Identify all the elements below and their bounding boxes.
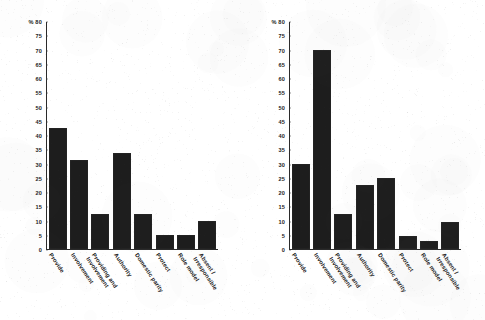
y-axis-tick-mark	[289, 36, 291, 37]
y-axis-tick-label: 30	[278, 162, 289, 168]
y-axis-tick-label: 40	[35, 133, 46, 139]
y-axis-tick-label: 55	[35, 90, 46, 96]
x-axis-category-label: Authority	[354, 252, 375, 279]
y-axis-tick-label: 10	[35, 219, 46, 225]
x-axis-category-label-line: Authority	[356, 252, 376, 278]
y-axis-tick-label: 0	[282, 247, 289, 253]
bar	[292, 164, 310, 249]
y-axis-tick-mark	[46, 164, 48, 165]
y-axis-tick-label: % 80	[271, 19, 289, 25]
y-axis-tick-label: 10	[278, 219, 289, 225]
x-axis-category-label: Provide	[47, 252, 66, 275]
bar	[70, 160, 88, 249]
plot-area-left: 051015202530354045505560657075% 80	[46, 22, 218, 250]
bar	[313, 50, 331, 249]
x-axis-category-label: Authority	[111, 252, 132, 279]
y-axis-tick-label: 15	[278, 204, 289, 210]
y-axis-tick-label: 50	[278, 105, 289, 111]
y-axis-tick-mark	[289, 64, 291, 65]
y-axis-tick-label: 40	[278, 133, 289, 139]
bar	[441, 222, 459, 249]
bar	[156, 235, 174, 249]
y-axis-tick-label: 0	[39, 247, 46, 253]
y-axis-tick-mark	[46, 250, 48, 251]
x-axis-category-label-line: Protect	[155, 252, 172, 273]
bar	[377, 178, 395, 249]
y-axis-tick-label: 45	[278, 119, 289, 125]
y-axis-tick-mark	[46, 178, 48, 179]
y-axis-tick-label: 60	[35, 76, 46, 82]
bar	[356, 185, 374, 249]
x-axis-category-label-line: Protect	[398, 252, 415, 273]
bar	[177, 235, 195, 249]
y-axis-tick-mark	[289, 79, 291, 80]
y-axis-tick-mark	[46, 121, 48, 122]
y-axis-tick-mark	[46, 107, 48, 108]
x-axis-category-label-line: Provide	[48, 252, 65, 274]
bar-series-left	[47, 22, 218, 249]
y-axis-tick-mark	[46, 136, 48, 137]
y-axis-tick-mark	[289, 22, 291, 23]
y-axis-tick-label: 75	[278, 33, 289, 39]
x-axis-category-label-line: Authority	[113, 252, 133, 278]
y-axis-tick-label: 70	[278, 48, 289, 54]
y-axis-tick-mark	[46, 193, 48, 194]
bar	[198, 221, 216, 249]
y-axis-tick-label: 45	[35, 119, 46, 125]
y-axis-tick-mark	[46, 93, 48, 94]
x-axis-line-left	[46, 249, 218, 250]
x-axis-category-label: Protect	[397, 252, 415, 274]
bar-series-right	[290, 22, 461, 249]
y-axis-tick-mark	[289, 136, 291, 137]
y-axis-tick-label: 60	[278, 76, 289, 82]
y-axis-tick-label: 30	[35, 162, 46, 168]
y-axis-tick-label: % 80	[28, 19, 46, 25]
y-axis-tick-mark	[289, 107, 291, 108]
y-axis-tick-label: 25	[278, 176, 289, 182]
y-axis-tick-mark	[46, 79, 48, 80]
y-axis-tick-mark	[289, 178, 291, 179]
y-axis-tick-label: 75	[35, 33, 46, 39]
y-axis-tick-mark	[289, 150, 291, 151]
bar-chart-panel-right: 051015202530354045505560657075% 80 Provi…	[243, 0, 485, 320]
y-axis-tick-label: 5	[39, 233, 46, 239]
y-axis-tick-mark	[289, 250, 291, 251]
x-axis-labels-right: ProvideInvolvementProviding andInvolveme…	[290, 252, 465, 320]
y-axis-tick-mark	[289, 50, 291, 51]
bar	[420, 241, 438, 250]
y-axis-tick-label: 20	[278, 190, 289, 196]
y-axis-tick-label: 35	[35, 147, 46, 153]
x-axis-labels-left: ProvideInvolvementProviding andInvolveme…	[47, 252, 222, 320]
y-axis-tick-mark	[46, 50, 48, 51]
x-axis-category-label: Provide	[290, 252, 309, 275]
y-axis-tick-label: 25	[35, 176, 46, 182]
y-axis-tick-mark	[289, 193, 291, 194]
y-axis-tick-mark	[46, 207, 48, 208]
y-axis-tick-mark	[289, 221, 291, 222]
y-axis-tick-label: 65	[35, 62, 46, 68]
bar	[91, 214, 109, 249]
y-axis-tick-label: 50	[35, 105, 46, 111]
y-axis-tick-label: 65	[278, 62, 289, 68]
y-axis-tick-label: 35	[278, 147, 289, 153]
bar	[113, 153, 131, 249]
plot-area-right: 051015202530354045505560657075% 80	[289, 22, 461, 250]
bar	[49, 128, 67, 249]
bar	[334, 214, 352, 249]
y-axis-tick-label: 55	[278, 90, 289, 96]
x-axis-category-label: Protect	[154, 252, 172, 274]
y-axis-tick-label: 20	[35, 190, 46, 196]
y-axis-tick-label: 15	[35, 204, 46, 210]
y-axis-tick-mark	[289, 235, 291, 236]
y-axis-tick-mark	[289, 121, 291, 122]
y-axis-tick-mark	[46, 22, 48, 23]
y-axis-tick-mark	[46, 235, 48, 236]
y-axis-tick-label: 70	[35, 48, 46, 54]
x-axis-category-label-line: Provide	[291, 252, 308, 274]
y-axis-tick-mark	[289, 93, 291, 94]
y-axis-tick-mark	[46, 150, 48, 151]
y-axis-tick-mark	[289, 164, 291, 165]
bar-chart-panel-left: 051015202530354045505560657075% 80 Provi…	[0, 0, 242, 320]
bar	[399, 236, 417, 249]
bar	[134, 214, 152, 249]
